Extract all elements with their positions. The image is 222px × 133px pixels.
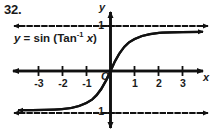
figure-container: 32. y = sin (Tan-1 x) y x O -3 -2 -1 1 2… bbox=[0, 0, 222, 133]
equation-label: y = sin (Tan-1 x) bbox=[14, 33, 97, 45]
equation-outer-function: sin bbox=[34, 32, 51, 44]
y-tick-label-neg1: -1 bbox=[84, 106, 104, 117]
origin-label: O bbox=[101, 71, 110, 82]
problem-number: 32. bbox=[4, 3, 21, 16]
graph-canvas bbox=[0, 0, 222, 133]
x-tick-label-2: 2 bbox=[153, 78, 165, 89]
x-tick-label-neg3: -3 bbox=[32, 78, 46, 89]
equation-inner-function: Tan bbox=[57, 32, 77, 44]
x-axis-label: x bbox=[203, 72, 209, 83]
x-tick-label-neg2: -2 bbox=[56, 78, 70, 89]
x-tick-label-neg1: -1 bbox=[80, 78, 94, 89]
y-axis-label: y bbox=[99, 2, 105, 13]
x-tick-label-1: 1 bbox=[129, 78, 141, 89]
y-tick-label-1: 1 bbox=[88, 20, 104, 31]
x-tick-label-3: 3 bbox=[177, 78, 189, 89]
equation-close-paren: ) bbox=[93, 32, 97, 44]
